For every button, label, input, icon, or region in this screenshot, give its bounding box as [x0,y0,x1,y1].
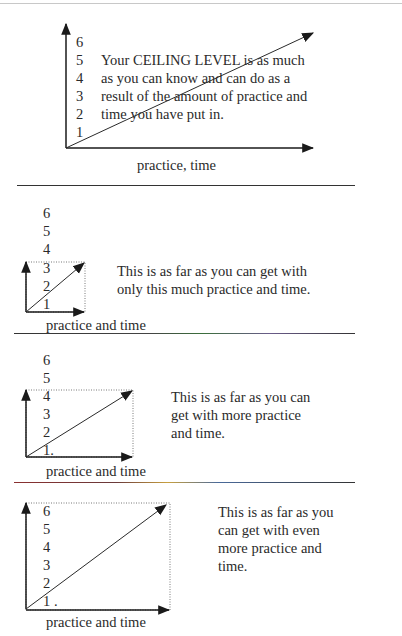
panel4-tick-6: 6 [43,502,50,520]
panel3-tick-2: 2 [43,423,50,441]
panel2-text-line-2: only this much practice and time. [117,280,310,298]
panel1-tick-6: 6 [76,33,83,51]
panel3-tick-6: 6 [43,351,50,369]
panel1-tick-2: 2 [76,105,83,123]
panel2-text-line-1: This is as far as you can get with [117,262,307,280]
panel3-tick-3: 3 [43,405,50,423]
panel1-text-line-4: time you have put in. [101,105,224,123]
panel3-text-line-1: This is as far as you can [171,388,310,406]
panel1-text-line-1: Your CEILING LEVEL is as much [101,51,305,69]
panel2-x-label: practice and time [46,316,146,334]
separator-1 [17,185,355,186]
panel3-tick-4: 4 [43,387,50,405]
panel4-text-line-2: can get with even [218,521,320,539]
panel2-tick-3: 3 [43,259,50,277]
panel2-tick-5: 5 [43,222,50,240]
panel1-tick-1: 1 [76,123,83,141]
panel3-tick-5: 5 [43,369,50,387]
panel3-x-label: practice and time [46,462,146,480]
panel2-chart [26,262,85,312]
panel3-ceiling-arrow [26,391,132,457]
panel2-tick-6: 6 [43,204,50,222]
panel4-tick-3: 3 [43,556,50,574]
panel3-text-line-2: get with more practice [171,406,301,424]
panel2-tick-2: 2 [43,277,50,295]
panel4-text-line-4: time. [218,557,247,575]
panel4-text-line-3: more practice and [218,539,322,557]
panel4-tick-1: 1 . [43,592,58,610]
panel4-text-line-1: This is as far as you [218,503,334,521]
panel4-tick-2: 2 [43,574,50,592]
panel2-tick-1: 1 [43,295,50,313]
panel4-x-label: practice and time [46,613,146,631]
panel3-text-line-3: and time. [171,424,225,442]
panel1-tick-4: 4 [76,69,83,87]
panel2-tick-4: 4 [43,240,50,258]
panel4-tick-4: 4 [43,538,50,556]
panel1-tick-5: 5 [76,51,83,69]
panel4-tick-5: 5 [43,520,50,538]
panel1-tick-3: 3 [76,87,83,105]
panel1-text-line-3: result of the amount of practice and [101,87,307,105]
panel3-tick-1: 1. [43,441,54,459]
panel1-text-line-2: as you can know and can do as a [101,69,290,87]
separator-2 [14,333,355,334]
separator-3 [14,482,355,483]
panel1-x-label: practice, time [137,156,216,174]
panel2-ceiling-arrow [26,263,84,312]
